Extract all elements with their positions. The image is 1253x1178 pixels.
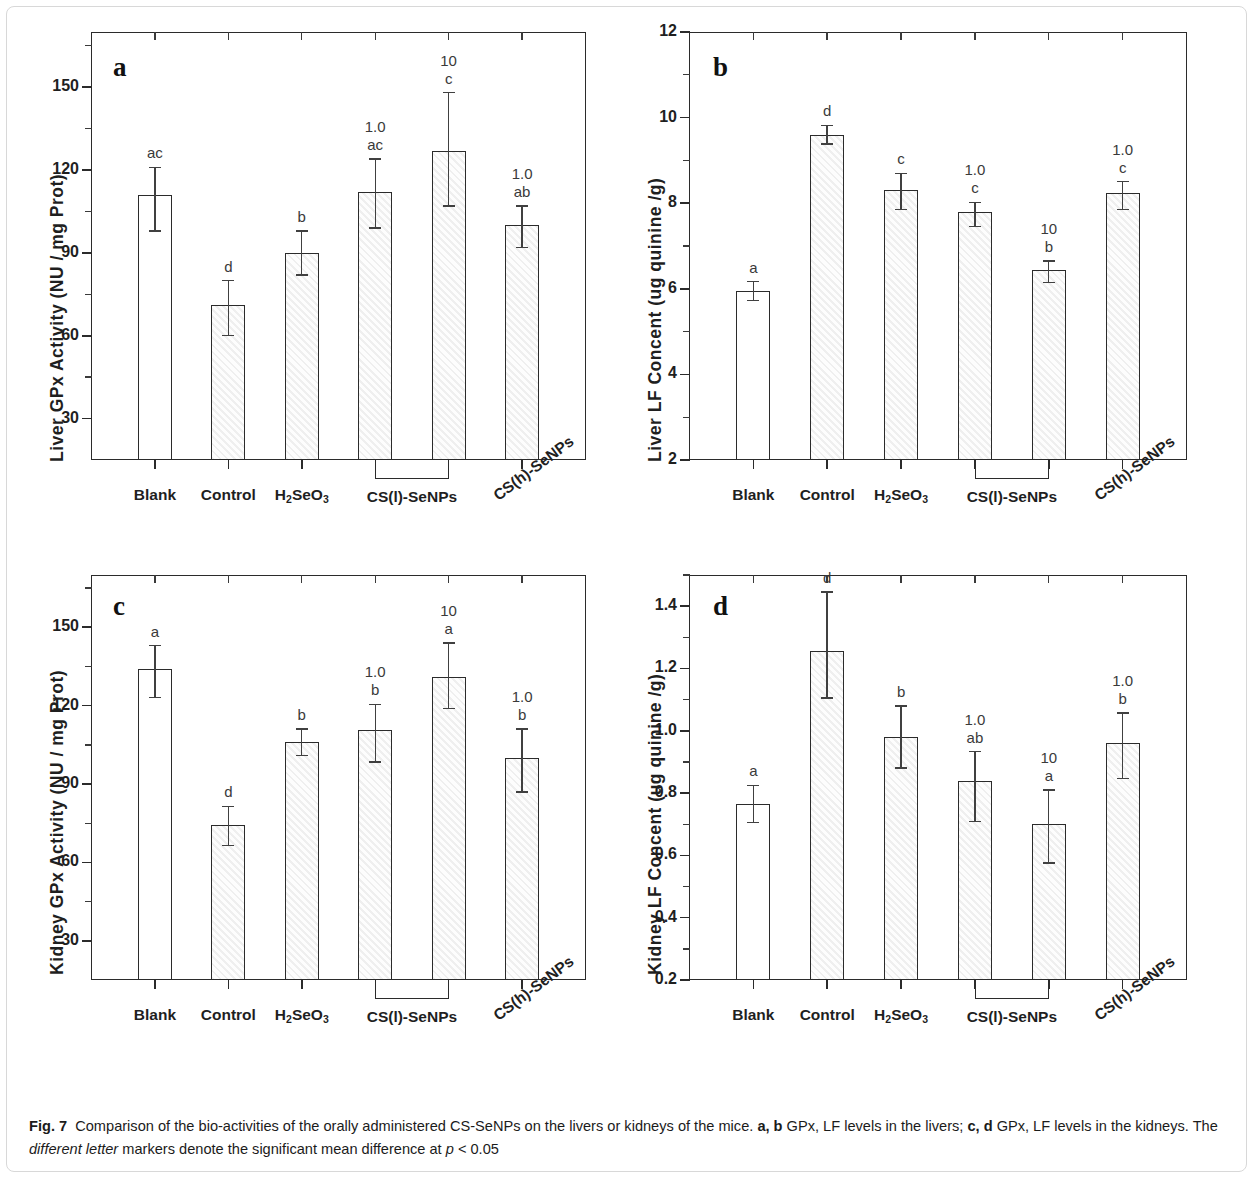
x-axis-tick bbox=[753, 980, 755, 989]
error-bar bbox=[1048, 790, 1049, 863]
ytick-label-d-5: 1.2 bbox=[613, 658, 677, 676]
x-axis-tick-top bbox=[974, 575, 975, 583]
panel-letter-d: d bbox=[713, 593, 728, 620]
ytick-major-d-1 bbox=[680, 917, 690, 919]
x-axis-tick-top bbox=[1048, 575, 1049, 583]
dose-label: 1.0 bbox=[945, 711, 1005, 728]
ytick-minor-d bbox=[683, 637, 690, 638]
ytick-label-d-3: 0.8 bbox=[613, 783, 677, 801]
caption-text-1: Comparison of the bio-activities of the … bbox=[75, 1118, 757, 1134]
significance-letter: a bbox=[723, 763, 783, 779]
caption-ref-ab: a, b bbox=[757, 1118, 782, 1134]
figure-card: aLiver GPx Activity (NU / mg Prot)306090… bbox=[6, 6, 1247, 1172]
error-bar-cap-bottom bbox=[1043, 862, 1055, 863]
bar bbox=[884, 737, 918, 980]
x-axis-tick bbox=[900, 980, 902, 989]
error-bar-cap-top bbox=[1043, 789, 1055, 790]
bar bbox=[736, 804, 770, 980]
error-bar-cap-top bbox=[821, 591, 833, 592]
ytick-minor-d bbox=[683, 824, 690, 825]
error-bar-cap-bottom bbox=[1117, 778, 1129, 779]
ytick-major-d-5 bbox=[680, 668, 690, 670]
caption-text-4: markers denote the significant mean diff… bbox=[118, 1141, 445, 1157]
ytick-label-d-2: 0.6 bbox=[613, 845, 677, 863]
ytick-minor-d bbox=[683, 761, 690, 762]
ytick-major-d-2 bbox=[680, 855, 690, 857]
error-bar bbox=[753, 785, 754, 822]
bar bbox=[810, 651, 844, 980]
error-bar-cap-top bbox=[1117, 712, 1129, 713]
error-bar-cap-top bbox=[895, 705, 907, 706]
error-bar bbox=[826, 592, 827, 698]
ytick-major-d-0 bbox=[680, 979, 690, 981]
ytick-minor-d bbox=[683, 699, 690, 700]
error-bar-cap-top bbox=[969, 751, 981, 752]
ytick-minor-d bbox=[683, 886, 690, 887]
significance-letter: ab bbox=[945, 730, 1005, 746]
significance-letter: a bbox=[1019, 768, 1079, 784]
yaxis-title-d: Kidney LF Concent (ug quinine /g) bbox=[645, 674, 666, 975]
ytick-major-d-4 bbox=[680, 730, 690, 732]
error-bar bbox=[974, 752, 975, 822]
caption-text-5: < 0.05 bbox=[454, 1141, 499, 1157]
error-bar-cap-bottom bbox=[969, 821, 981, 822]
ytick-minor-d bbox=[683, 948, 690, 949]
x-axis-tick bbox=[826, 980, 828, 989]
error-bar-cap-bottom bbox=[747, 822, 759, 823]
ytick-major-d-6 bbox=[680, 605, 690, 607]
caption-italic-phrase: different letter bbox=[29, 1141, 118, 1157]
figure-label: Fig. 7 bbox=[29, 1118, 67, 1134]
ytick-label-d-0: 0.2 bbox=[613, 970, 677, 988]
ytick-minor-d bbox=[683, 574, 690, 575]
x-axis-label-csl-senps: CS(l)-SeNPs bbox=[937, 1008, 1087, 1026]
error-bar-cap-bottom bbox=[821, 697, 833, 698]
dose-label: 10 bbox=[1019, 749, 1079, 766]
caption-ref-cd: c, d bbox=[967, 1118, 992, 1134]
panel-d: dKidney LF Concent (ug quinine /g)0.20.4… bbox=[7, 7, 1246, 1171]
ytick-major-d-3 bbox=[680, 792, 690, 794]
error-bar bbox=[900, 706, 901, 768]
x-axis-tick-top bbox=[826, 575, 827, 583]
caption-text-2: GPx, LF levels in the livers; bbox=[783, 1118, 968, 1134]
significance-letter: b bbox=[1093, 691, 1153, 707]
x-axis-tick-top bbox=[900, 575, 901, 583]
x-axis-tick-top bbox=[753, 575, 754, 583]
x-axis-tick-top bbox=[1122, 575, 1123, 583]
error-bar-cap-bottom bbox=[895, 767, 907, 768]
error-bar bbox=[1122, 713, 1123, 778]
caption-p-symbol: p bbox=[446, 1141, 454, 1157]
significance-letter: b bbox=[871, 684, 931, 700]
group-bracket-csl bbox=[975, 988, 1049, 999]
ytick-label-d-1: 0.4 bbox=[613, 908, 677, 926]
error-bar-cap-top bbox=[747, 785, 759, 786]
dose-label: 1.0 bbox=[1093, 672, 1153, 689]
caption-text-3: GPx, LF levels in the kidneys. The bbox=[993, 1118, 1218, 1134]
ytick-label-d-4: 1.0 bbox=[613, 721, 677, 739]
ytick-label-d-6: 1.4 bbox=[613, 596, 677, 614]
figure-caption: Fig. 7 Comparison of the bio-activities … bbox=[29, 1115, 1229, 1160]
